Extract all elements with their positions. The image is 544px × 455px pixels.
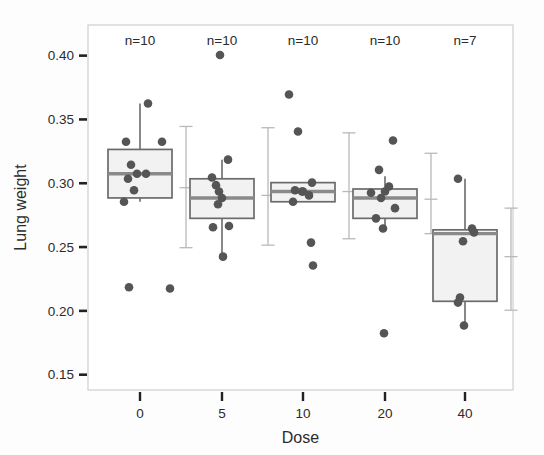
- data-point: [209, 223, 218, 232]
- data-point: [391, 204, 400, 213]
- y-tick-label: 0.15: [48, 367, 74, 382]
- data-point: [122, 137, 131, 146]
- data-point: [309, 261, 318, 270]
- data-point: [372, 214, 381, 223]
- data-point: [120, 197, 129, 206]
- data-point: [133, 169, 142, 178]
- data-point: [125, 283, 134, 292]
- data-point: [224, 155, 233, 164]
- data-point: [285, 90, 294, 99]
- data-point: [142, 169, 151, 178]
- data-point: [299, 187, 308, 196]
- data-point: [144, 99, 153, 108]
- data-point: [377, 194, 386, 203]
- data-point: [308, 178, 317, 187]
- x-tick-label: 20: [377, 406, 392, 421]
- y-tick-label: 0.25: [48, 240, 74, 255]
- x-tick-label: 40: [457, 406, 472, 421]
- y-axis-title: Lung weight: [12, 164, 29, 251]
- data-point: [289, 197, 298, 206]
- data-point: [124, 174, 133, 183]
- data-point: [158, 137, 167, 146]
- n-label: n=10: [207, 33, 237, 48]
- data-point: [216, 51, 225, 60]
- data-point: [208, 173, 217, 182]
- boxplot-figure: 0.400.350.300.250.200.15Lung weight05102…: [0, 0, 544, 455]
- data-point: [379, 224, 388, 233]
- data-point: [460, 321, 469, 330]
- n-label: n=10: [370, 33, 400, 48]
- data-point: [127, 160, 136, 169]
- x-tick-label: 0: [136, 406, 144, 421]
- data-point: [225, 222, 234, 231]
- data-point: [307, 238, 316, 247]
- data-point: [214, 200, 223, 209]
- y-axis: 0.400.350.300.250.200.15Lung weight: [12, 48, 87, 382]
- x-axis: 05102040Dose: [136, 392, 472, 446]
- data-point: [166, 284, 175, 293]
- n-label: n=10: [125, 33, 155, 48]
- data-point: [294, 127, 303, 136]
- n-label: n=10: [288, 33, 318, 48]
- data-point: [459, 237, 468, 246]
- data-point: [454, 298, 463, 307]
- chart-canvas: 0.400.350.300.250.200.15Lung weight05102…: [0, 0, 544, 455]
- data-point: [380, 329, 389, 338]
- y-tick-label: 0.20: [48, 304, 74, 319]
- data-point: [375, 166, 384, 175]
- y-tick-label: 0.40: [48, 48, 74, 63]
- x-axis-title: Dose: [282, 429, 319, 446]
- n-label: n=7: [454, 33, 477, 48]
- data-point: [219, 252, 228, 261]
- data-point: [470, 228, 479, 237]
- data-point: [454, 174, 463, 183]
- y-tick-label: 0.35: [48, 112, 74, 127]
- plot-frame: [88, 25, 513, 390]
- data-point: [389, 136, 398, 145]
- x-tick-label: 5: [218, 406, 226, 421]
- x-tick-label: 10: [295, 406, 310, 421]
- plot-area-border: [88, 25, 513, 390]
- data-point: [367, 189, 376, 198]
- data-point: [130, 186, 139, 195]
- y-tick-label: 0.30: [48, 176, 74, 191]
